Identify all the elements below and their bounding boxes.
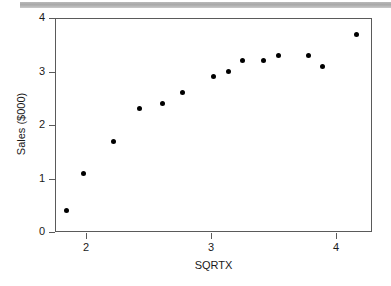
data-point: [64, 208, 69, 213]
y-tick-mark: [49, 179, 55, 180]
x-tick-label: 2: [71, 241, 101, 253]
y-tick-label-text: 4: [0, 12, 45, 23]
y-tick-label: 4: [0, 12, 45, 23]
x-tick-mark: [336, 233, 337, 239]
data-point: [276, 53, 281, 58]
y-tick-label: 0: [0, 226, 45, 237]
data-point: [226, 69, 231, 74]
x-tick-label: 4: [321, 241, 351, 253]
y-tick-mark: [49, 72, 55, 73]
x-tick-mark: [86, 233, 87, 239]
data-point: [306, 53, 311, 58]
y-tick-mark: [49, 125, 55, 126]
scatter-plot-figure: 01234 234 SQRTX Sales ($000): [0, 0, 391, 286]
data-point: [320, 64, 325, 69]
x-tick-label: 3: [196, 241, 226, 253]
data-point: [160, 101, 165, 106]
y-tick-mark: [49, 18, 55, 19]
x-axis-label: SQRTX: [55, 259, 372, 271]
y-axis-label: Sales ($000): [15, 64, 27, 184]
y-tick-label-text: 0: [0, 226, 45, 237]
plot-area: [55, 18, 372, 232]
y-tick-mark: [49, 232, 55, 233]
data-point: [111, 139, 116, 144]
data-point: [354, 32, 359, 37]
header-band: [20, 2, 391, 8]
data-point: [81, 171, 86, 176]
x-tick-mark: [211, 233, 212, 239]
